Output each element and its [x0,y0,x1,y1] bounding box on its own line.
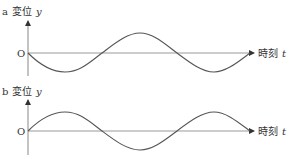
panel-b-x-var: t [282,126,287,137]
panel-a-y-var: y [35,6,42,17]
panel-a-y-label: 変位 [12,5,32,17]
panel-a-x-label: 時刻 [258,47,278,59]
panel-a-letter: a [2,6,8,17]
panel-b-letter: b [2,86,8,97]
panel-b-origin: O [17,126,25,137]
wave-diagram: a 変位 y O 時刻 t b 変位 y O 時刻 t [0,0,294,159]
panel-b-x-label: 時刻 [258,125,278,137]
panel-b-y-label: 変位 [12,85,32,97]
panel-a-origin: O [17,48,25,59]
panel-a-x-var: t [282,48,287,59]
panel-b-y-var: y [35,86,42,97]
panel-b: b 変位 y O 時刻 t [2,85,287,155]
panel-a: a 変位 y O 時刻 t [2,5,287,76]
